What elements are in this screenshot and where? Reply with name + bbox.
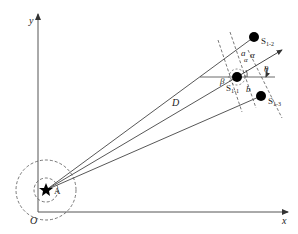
array-geometry-diagram: y x O S1-2 S1-1 S1-3 a α α θ β b D: [0, 0, 298, 234]
line-a-to-s1-2: [46, 37, 254, 190]
label-b: b: [246, 84, 251, 94]
label-alpha: α: [250, 50, 255, 60]
sensor-s1-3: [256, 91, 266, 101]
sensor-s1-1: [232, 72, 242, 82]
wavefront-2: [230, 32, 256, 108]
source-star-icon: [39, 183, 53, 196]
origin-label: O: [30, 215, 37, 226]
line-a-to-s1-1: [46, 77, 237, 190]
label-s1-2: S1-2: [261, 36, 274, 47]
label-source-a: A: [54, 186, 61, 196]
label-beta: β: [219, 76, 225, 86]
label-theta: θ: [264, 64, 269, 74]
label-distance-d: D: [171, 97, 180, 108]
sensor-s1-2: [249, 32, 259, 42]
y-axis-label: y: [28, 15, 34, 26]
x-axis-label: x: [281, 215, 287, 226]
axes: y x O: [28, 14, 288, 226]
label-s1-3: S1-3: [268, 96, 281, 107]
label-alpha-small: α: [244, 56, 248, 64]
propagation-lines: [46, 37, 261, 190]
line-a-to-s1-3: [46, 96, 261, 190]
